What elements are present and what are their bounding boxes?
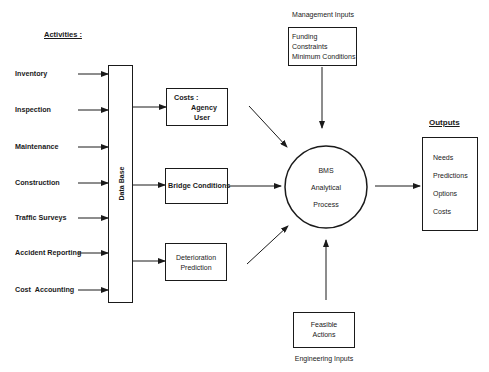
activity-inspection: Inspection <box>15 106 51 113</box>
activity-construction: Construction <box>15 179 60 186</box>
activities-heading: Activities : <box>44 31 82 39</box>
engineering-feasible: Feasible <box>293 321 355 328</box>
activity-maintenance: Maintenance <box>15 143 59 150</box>
deterioration-line-1: Deterioration <box>165 254 227 261</box>
activity-accident-reporting: Accident Reporting <box>15 249 81 256</box>
output-costs: Costs <box>433 208 451 215</box>
outputs-box <box>422 137 478 231</box>
engineering-actions: Actions <box>293 331 355 338</box>
connector-arrows <box>0 0 489 372</box>
process-line-analytical: Analytical <box>286 184 366 191</box>
management-funding: Funding <box>292 33 317 40</box>
costs-title: Costs : <box>174 94 198 101</box>
management-inputs-heading: Management Inputs <box>268 11 378 18</box>
engineering-inputs-box <box>293 312 355 348</box>
management-minimum-conditions: Minimum Conditions <box>292 53 355 60</box>
process-line-bms: BMS <box>286 167 366 174</box>
process-line-process: Process <box>286 201 366 208</box>
output-needs: Needs <box>433 154 453 161</box>
outputs-heading: Outputs <box>429 119 460 127</box>
management-constraints: Constraints <box>292 43 327 50</box>
database-label: Data Base <box>118 159 125 209</box>
activity-inventory: Inventory <box>15 70 47 77</box>
deterioration-box <box>165 243 227 281</box>
output-options: Options <box>433 190 457 197</box>
output-predictions: Predictions <box>433 172 468 179</box>
costs-agency: Agency <box>191 104 217 111</box>
deterioration-line-2: Prediction <box>165 264 227 271</box>
engineering-inputs-heading: Engineering Inputs <box>274 355 374 362</box>
activity-cost-accounting: Cost Accounting <box>15 286 74 293</box>
bridge-conditions-label: Bridge Conditions <box>168 182 230 189</box>
costs-user: User <box>194 114 210 121</box>
activity-traffic-surveys: Traffic Surveys <box>15 214 67 221</box>
